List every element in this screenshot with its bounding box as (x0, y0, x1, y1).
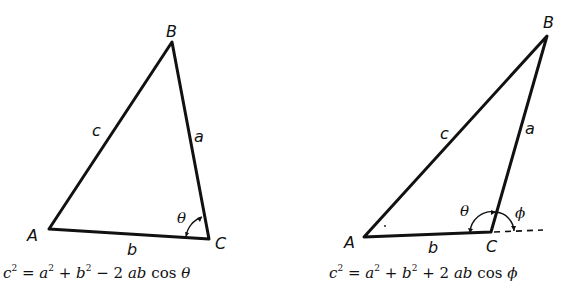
side-label-a: a (525, 119, 535, 138)
exponent: 2 (11, 263, 17, 273)
formula-law-of-cosines-acute: c2 = a2 + b2 − 2 ab cos θ (3, 264, 190, 282)
formula-term: θ (181, 264, 190, 282)
law-of-cosines-diagram: B A C c a b θ B A C c a b θ ϕ (0, 0, 567, 308)
equals-sign: = (348, 264, 361, 282)
angle-label-theta: θ (177, 209, 186, 227)
coefficient: 2 (114, 264, 124, 282)
vertex-label-b: B (543, 13, 554, 32)
side-label-b: b (127, 240, 137, 259)
formula-term: b (76, 264, 86, 282)
vertex-label-c: C (486, 237, 498, 256)
side-label-b: b (428, 238, 438, 257)
formula-term: ab (454, 264, 473, 282)
vertex-label-a: A (343, 233, 355, 252)
phi-angle-arc (496, 212, 514, 231)
vertex-label-a: A (26, 226, 38, 245)
formula-term: ϕ (507, 264, 517, 282)
operator: + (385, 264, 398, 282)
equals-sign: = (22, 264, 35, 282)
coefficient: 2 (440, 264, 450, 282)
exponent: 2 (48, 263, 54, 273)
exponent: 2 (86, 263, 92, 273)
operator: − (96, 264, 109, 282)
formula-term: a (39, 264, 48, 282)
operator: + (422, 264, 435, 282)
side-label-c: c (92, 121, 101, 140)
right-triangle: B A C c a b θ ϕ (343, 13, 554, 257)
left-triangle: B A C c a b θ (26, 22, 227, 259)
vertex-label-c: C (215, 234, 227, 253)
exponent: 2 (374, 263, 380, 273)
formula-term: ab (128, 264, 147, 282)
formula-law-of-cosines-obtuse: c2 = a2 + b2 + 2 ab cos ϕ (329, 264, 517, 282)
function-name: cos (151, 264, 176, 282)
formula-term: b (402, 264, 412, 282)
operator: + (59, 264, 72, 282)
exponent: 2 (412, 263, 418, 273)
exponent: 2 (337, 263, 343, 273)
angle-label-phi: ϕ (515, 204, 525, 222)
dot-mark (384, 225, 386, 227)
side-label-a: a (194, 127, 204, 146)
angle-label-theta: θ (460, 202, 469, 220)
vertex-label-b: B (166, 22, 177, 41)
formula-term: a (365, 264, 374, 282)
function-name: cos (477, 264, 502, 282)
extension-dashed-line (494, 230, 543, 232)
side-label-c: c (440, 124, 449, 143)
